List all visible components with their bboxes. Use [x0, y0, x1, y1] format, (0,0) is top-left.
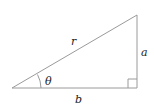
angle-label: θ	[45, 75, 52, 88]
opposite-label: a	[141, 46, 148, 59]
right-triangle-diagram: r a θ b	[0, 0, 154, 109]
right-angle-marker	[128, 79, 137, 88]
hypotenuse-label: r	[71, 35, 77, 48]
angle-arc	[38, 75, 42, 89]
triangle	[12, 15, 137, 88]
adjacent-label: b	[75, 93, 82, 106]
